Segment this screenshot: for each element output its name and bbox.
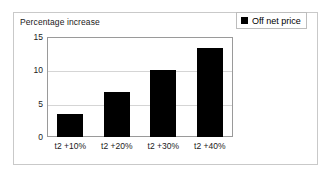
y-tick-label-5: 5 — [19, 99, 43, 109]
y-tick-label-10: 10 — [19, 65, 43, 75]
x-tick-label: t2 +30% — [148, 141, 179, 151]
gridline-10 — [48, 71, 232, 72]
x-axis-tick-labels: t2 +10%t2 +20%t2 +30%t2 +40% — [47, 141, 233, 155]
y-tick-label-15: 15 — [19, 32, 43, 42]
chart-legend: Off net price — [236, 12, 307, 29]
y-axis-title: Percentage increase — [20, 17, 100, 27]
legend-label-off-net-price: Off net price — [252, 16, 301, 26]
legend-marker-icon — [241, 17, 248, 24]
plot-area — [47, 37, 233, 137]
x-tick-label: t2 +20% — [101, 141, 132, 151]
x-tick-label: t2 +10% — [55, 141, 86, 151]
y-tick-label-0: 0 — [19, 132, 43, 142]
gridline-5 — [48, 105, 232, 106]
x-tick-label: t2 +40% — [194, 141, 225, 151]
y-axis-tick-labels: 051015 — [18, 37, 43, 137]
